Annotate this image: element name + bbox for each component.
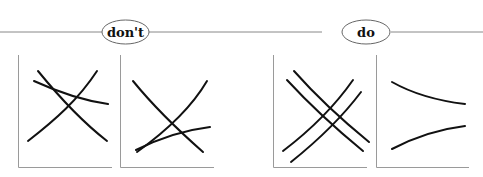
do-panel-2-axes (377, 55, 470, 168)
dont-label: don't (107, 25, 144, 40)
curves-layer (28, 71, 465, 162)
do-panel-2-curve-2 (392, 126, 465, 149)
do-label-badge: do (342, 20, 390, 44)
dont-panel-2-curve-2 (137, 81, 207, 152)
do-panel-1-axes (274, 55, 368, 168)
diagram-canvas: don't do (0, 0, 483, 177)
dont-panel-1-curve-3 (34, 81, 108, 104)
dont-panel-2-curve-3 (136, 127, 210, 150)
dont-panel-2-curve-1 (133, 81, 203, 152)
do-label: do (357, 25, 375, 40)
do-panel-1-curve-1 (287, 80, 363, 151)
do-panel-2-curve-1 (392, 82, 465, 104)
dont-label-badge: don't (102, 20, 149, 44)
dont-panel-1-curve-2 (28, 71, 97, 141)
dont-panel-1-axes (19, 55, 113, 168)
dont-panel-1-curve-1 (38, 71, 107, 141)
